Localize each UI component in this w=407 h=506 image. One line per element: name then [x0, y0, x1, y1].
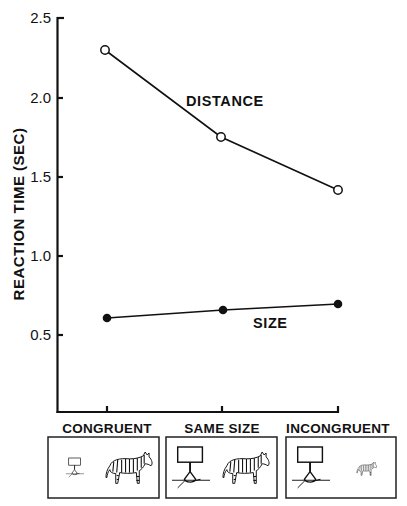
- series-label-distance: DISTANCE: [186, 93, 264, 109]
- size-point-incongruent: [334, 300, 343, 309]
- category-label-same-size: SAME SIZE: [184, 421, 259, 436]
- category-label-incongruent: INCONGRUENT: [286, 421, 390, 436]
- distance-point-incongruent: [334, 186, 342, 194]
- y-tick-label: 2.0: [30, 89, 51, 106]
- series-size: SIZE: [103, 300, 343, 331]
- y-tick-label: 0.5: [30, 326, 51, 343]
- axes: [57, 17, 340, 413]
- y-tick-label: 2.5: [30, 9, 51, 26]
- series-label-size: SIZE: [253, 315, 288, 331]
- y-axis-title: REACTION TIME (SEC): [10, 128, 27, 301]
- x-category-labels: CONGRUENT SAME SIZE INCONGRUENT: [62, 421, 390, 436]
- distance-point-same-size: [217, 133, 225, 141]
- series-distance: DISTANCE: [101, 46, 342, 194]
- y-tick-labels: 2.5 2.0 1.5 1.0 0.5: [30, 9, 51, 343]
- size-point-congruent: [103, 314, 112, 323]
- stimulus-panel-congruent: [48, 437, 159, 498]
- distance-line: [105, 50, 338, 190]
- category-label-congruent: CONGRUENT: [62, 421, 152, 436]
- stimulus-panel-same-size: [166, 437, 277, 498]
- y-tick-label: 1.5: [30, 168, 51, 185]
- distance-point-congruent: [101, 46, 109, 54]
- reaction-time-chart: REACTION TIME (SEC) 2.5 2.0 1.5 1.0 0.5 …: [0, 0, 407, 506]
- size-point-same-size: [219, 306, 228, 315]
- y-tick-label: 1.0: [30, 247, 51, 264]
- stimulus-panel-incongruent: [286, 437, 396, 498]
